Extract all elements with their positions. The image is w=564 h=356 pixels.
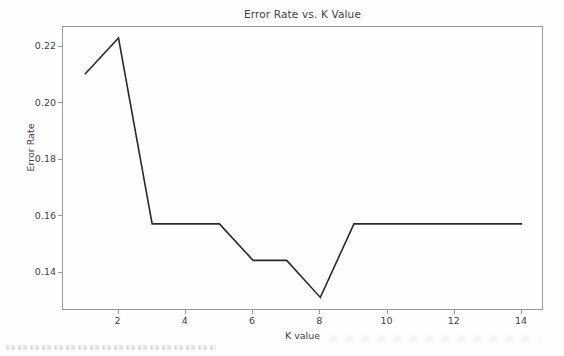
x-tick-label: 8 — [299, 315, 339, 327]
error-rate-line-series — [63, 27, 544, 311]
x-tick: 6 — [232, 310, 272, 330]
scan-artifact — [6, 345, 216, 350]
data-polyline — [85, 38, 522, 297]
y-tick: 0.14 — [0, 266, 62, 278]
y-tick: 0.16 — [0, 210, 62, 222]
chart-title: Error Rate vs. K Value — [62, 8, 543, 20]
x-tick: 14 — [501, 310, 541, 330]
x-tick-label: 6 — [232, 315, 272, 327]
y-tick-label: 0.22 — [35, 40, 56, 52]
x-tick: 2 — [98, 310, 138, 330]
x-tick: 10 — [367, 310, 407, 330]
y-tick-label: 0.14 — [35, 266, 56, 278]
x-tick-label: 14 — [501, 315, 541, 327]
x-tick-label: 10 — [367, 315, 407, 327]
plot-area — [62, 26, 543, 310]
y-tick: 0.22 — [0, 40, 62, 52]
x-tick-label: 2 — [98, 315, 138, 327]
scan-artifact-secondary — [330, 336, 540, 342]
x-tick-label: 12 — [434, 315, 474, 327]
y-axis-label: Error Rate — [25, 98, 36, 198]
y-tick: 0.20 — [0, 97, 62, 109]
y-tick-label: 0.16 — [35, 210, 56, 222]
x-tick-label: 4 — [165, 315, 205, 327]
y-tick: 0.18 — [0, 153, 62, 165]
x-tick: 4 — [165, 310, 205, 330]
x-tick: 12 — [434, 310, 474, 330]
y-tick-label: 0.18 — [35, 153, 56, 165]
chart-figure: Error Rate vs. K Value Error Rate K valu… — [0, 0, 564, 356]
x-tick: 8 — [299, 310, 339, 330]
y-tick-label: 0.20 — [35, 97, 56, 109]
